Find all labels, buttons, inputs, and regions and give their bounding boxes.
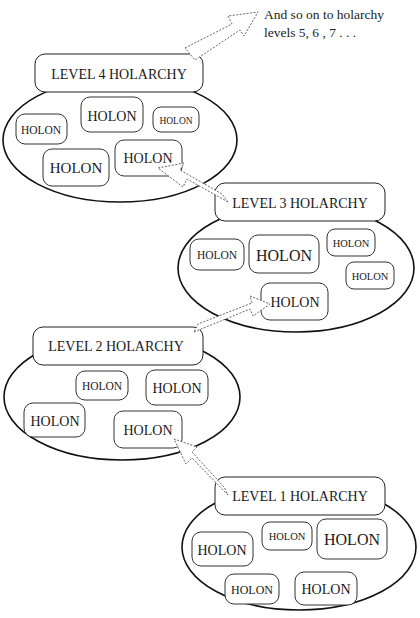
holon-label: HOLON bbox=[21, 124, 62, 136]
holon: HOLON bbox=[295, 572, 357, 605]
level-3-holarchy: LEVEL 3 HOLARCHY HOLON HOLON HOLON HOLON… bbox=[178, 183, 414, 332]
holon: HOLON bbox=[81, 97, 143, 132]
holon-label: HOLON bbox=[271, 295, 320, 310]
level-2-holarchy: LEVEL 2 HOLARCHY HOLON HOLON HOLON HOLON bbox=[4, 327, 240, 460]
holon-label: HOLON bbox=[256, 247, 312, 264]
level-4-holarchy: LEVEL 4 HOLARCHY HOLON HOLON HOLON HOLON… bbox=[3, 54, 237, 202]
holon: HOLON bbox=[346, 262, 394, 289]
holon: HOLON bbox=[16, 114, 67, 144]
holon-label: HOLON bbox=[124, 151, 173, 166]
holon: HOLON bbox=[146, 370, 208, 405]
holon: HOLON bbox=[114, 411, 182, 448]
holon-label: HOLON bbox=[124, 423, 173, 438]
holon: HOLON bbox=[249, 235, 319, 273]
level-1-holarchy: LEVEL 1 HOLARCHY HOLON HOLON HOLON HOLON… bbox=[182, 477, 416, 610]
holon: HOLON bbox=[317, 519, 387, 559]
holon-label: HOLON bbox=[324, 531, 380, 548]
holon-label: HOLON bbox=[269, 531, 306, 542]
holon-label: HOLON bbox=[198, 543, 247, 558]
holon-label: HOLON bbox=[352, 271, 389, 282]
holon-label: HOLON bbox=[82, 380, 123, 392]
arrow-level1-to-level2-icon bbox=[174, 439, 228, 495]
holon-label: HOLON bbox=[153, 381, 202, 396]
holon: HOLON bbox=[261, 283, 328, 320]
holon-label: HOLON bbox=[231, 583, 273, 597]
holon-label: HOLON bbox=[50, 160, 103, 176]
holon: HOLON bbox=[327, 229, 375, 256]
holon-label: HOLON bbox=[197, 249, 238, 261]
level-1-label: LEVEL 1 HOLARCHY bbox=[232, 489, 368, 504]
holon: HOLON bbox=[190, 239, 244, 270]
holon: HOLON bbox=[153, 107, 199, 132]
holon-label: HOLON bbox=[31, 414, 80, 429]
level-3-label: LEVEL 3 HOLARCHY bbox=[232, 196, 368, 211]
holon-label: HOLON bbox=[159, 116, 192, 126]
arrow-to-higher-levels-icon bbox=[185, 12, 258, 60]
holon: HOLON bbox=[24, 403, 85, 437]
holon: HOLON bbox=[192, 532, 253, 566]
holon: HOLON bbox=[262, 522, 312, 550]
holon-label: HOLON bbox=[88, 109, 137, 124]
holon-label: HOLON bbox=[302, 582, 351, 597]
holon: HOLON bbox=[43, 149, 109, 186]
level-2-label: LEVEL 2 HOLARCHY bbox=[48, 339, 184, 354]
level-4-label: LEVEL 4 HOLARCHY bbox=[51, 67, 187, 82]
holon: HOLON bbox=[76, 371, 128, 400]
holon-label: HOLON bbox=[333, 238, 370, 249]
holarchy-diagram: LEVEL 4 HOLARCHY HOLON HOLON HOLON HOLON… bbox=[0, 0, 420, 618]
holon: HOLON bbox=[225, 574, 279, 604]
